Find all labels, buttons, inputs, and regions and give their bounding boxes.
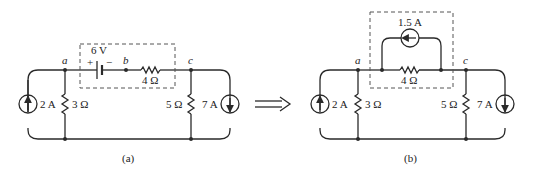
source-2a-label: 2 A <box>40 98 56 110</box>
source-transformation-figure: a b c 6 V + − 4 Ω 2 A 3 Ω 5 Ω 7 A (a) <box>0 0 533 169</box>
minus-sign: − <box>106 56 112 68</box>
resistor-3ohm-label: 3 Ω <box>365 98 381 110</box>
resistor-4ohm-label: 4 Ω <box>401 74 417 86</box>
voltage-label: 6 V <box>91 44 107 56</box>
plus-sign: + <box>87 56 93 68</box>
source-2a-label: 2 A <box>332 98 348 110</box>
source-1-5a-label: 1.5 A <box>398 16 422 28</box>
caption-a: (a) <box>122 152 135 165</box>
node-c-label: c <box>463 54 468 66</box>
resistor-4ohm <box>400 67 419 73</box>
resistor-3ohm <box>355 94 361 114</box>
node-a-label: a <box>62 54 68 66</box>
transform-arrow-icon <box>255 97 290 111</box>
resistor-4ohm-label: 4 Ω <box>142 74 158 86</box>
resistor-5ohm <box>463 94 469 114</box>
resistor-3ohm-label: 3 Ω <box>72 98 88 110</box>
wire <box>28 128 230 139</box>
node-a-label: a <box>355 54 361 66</box>
caption-b: (b) <box>404 152 417 165</box>
resistor-5ohm-label: 5 Ω <box>441 98 457 110</box>
node-c-label: c <box>188 54 193 66</box>
circuit-a: a b c 6 V + − 4 Ω 2 A 3 Ω 5 Ω 7 A (a) <box>19 44 239 165</box>
resistor-3ohm <box>62 94 68 114</box>
circuit-diagrams: a b c 6 V + − 4 Ω 2 A 3 Ω 5 Ω 7 A (a) <box>0 0 533 169</box>
circuit-b: a c 1.5 A 4 Ω 2 A 3 Ω 5 Ω 7 A (b) <box>311 12 514 165</box>
resistor-5ohm-label: 5 Ω <box>166 98 182 110</box>
node-b-label: b <box>123 54 129 66</box>
source-7a-label: 7 A <box>202 98 218 110</box>
resistor-4ohm <box>141 67 160 73</box>
resistor-5ohm <box>188 94 194 114</box>
source-7a-label: 7 A <box>477 98 493 110</box>
